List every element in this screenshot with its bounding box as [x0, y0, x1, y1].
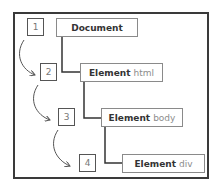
node-keyword: Document: [71, 23, 123, 33]
node-element-body: Element body: [101, 108, 183, 127]
step-2-badge: 2: [40, 63, 57, 81]
node-tag: html: [134, 68, 155, 78]
node-keyword: Element: [109, 113, 151, 123]
arrow-3-to-4: [54, 130, 70, 166]
node-tag: body: [153, 113, 175, 123]
node-tag: div: [179, 159, 193, 169]
step-3-badge: 3: [58, 108, 75, 126]
step-1-badge: 1: [27, 18, 44, 36]
tree-connector-lines: [62, 36, 122, 163]
node-element-div: Element div: [122, 154, 205, 173]
step-4-badge: 4: [79, 154, 96, 172]
node-document: Document: [56, 18, 138, 37]
node-keyword: Element: [134, 159, 176, 169]
node-keyword: Element: [89, 68, 131, 78]
arrow-1-to-2: [20, 40, 35, 75]
arrow-2-to-3: [34, 85, 50, 120]
node-element-html: Element html: [80, 63, 163, 82]
